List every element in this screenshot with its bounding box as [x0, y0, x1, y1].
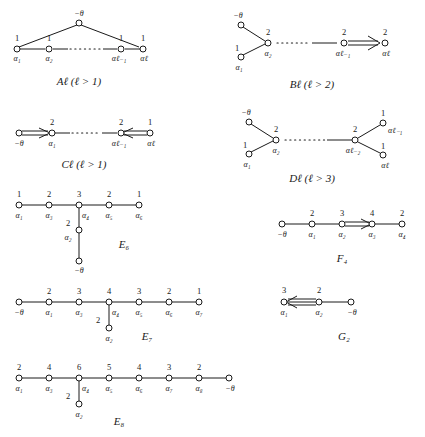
label-alpha2: α₂: [106, 334, 113, 343]
node-alpha1[interactable]: [16, 202, 22, 208]
node-theta[interactable]: [76, 258, 82, 264]
label-alpha-l: αℓ: [382, 49, 390, 58]
diagram-B: −θ 1 2 2 2 α₁ α₂ αℓ₋₁ αℓ Bℓ (ℓ > 2): [233, 11, 390, 91]
mark-alpha-l: 1: [141, 33, 145, 43]
node-alpha5[interactable]: [136, 299, 142, 305]
node-theta[interactable]: [238, 22, 244, 28]
mark-alpha-l-2: 2: [353, 124, 357, 134]
node-alpha3[interactable]: [369, 221, 375, 227]
node-alpha3[interactable]: [76, 299, 82, 305]
caption-D: Dℓ (ℓ > 3): [288, 172, 335, 185]
node-alpha-l-2[interactable]: [352, 137, 358, 143]
node-alpha-l[interactable]: [382, 40, 388, 46]
label-theta: −θ: [277, 230, 286, 239]
mark-alpha2: 2: [96, 315, 100, 325]
node-alpha-l-1[interactable]: [341, 40, 347, 46]
node-alpha1[interactable]: [238, 54, 244, 60]
node-alpha-l[interactable]: [380, 152, 386, 158]
node-alpha4[interactable]: [399, 221, 405, 227]
node-alpha-l-1[interactable]: [118, 130, 124, 136]
label-alpha-l-1: αℓ₋₁: [112, 139, 127, 148]
label-theta: −θ: [14, 139, 23, 148]
mark-alpha5: 3: [137, 286, 141, 296]
mark-alpha-l: 1: [381, 141, 385, 151]
node-alpha1[interactable]: [46, 299, 52, 305]
diagram-A: −θ 1 1 1 1 α₁ α₂ αℓ₋₁ αℓ Aℓ (ℓ > 1): [14, 9, 149, 88]
node-alpha1[interactable]: [14, 46, 20, 52]
node-alpha1[interactable]: [246, 151, 252, 157]
node-theta[interactable]: [348, 299, 354, 305]
label-alpha-l-2: αℓ₋₂: [346, 146, 361, 155]
node-alpha2[interactable]: [76, 227, 82, 233]
mark-alpha2: 2: [317, 285, 321, 295]
node-alpha1[interactable]: [49, 130, 55, 136]
node-theta[interactable]: [226, 375, 232, 381]
node-theta[interactable]: [16, 130, 22, 136]
node-alpha-l[interactable]: [147, 130, 153, 136]
mark-alpha6: 2: [167, 286, 171, 296]
node-theta[interactable]: [279, 221, 285, 227]
node-theta[interactable]: [16, 299, 22, 305]
arrowhead-right: [368, 36, 380, 50]
dynkin-diagrams-svg: −θ 1 1 1 1 α₁ α₂ αℓ₋₁ αℓ Aℓ (ℓ > 1) −θ 1…: [0, 0, 425, 437]
label-alpha-l-1: αℓ₋₁: [112, 54, 127, 63]
node-alpha2[interactable]: [46, 46, 52, 52]
node-alpha3[interactable]: [46, 202, 52, 208]
node-alpha5[interactable]: [106, 202, 112, 208]
node-alpha4[interactable]: [76, 375, 82, 381]
node-alpha8[interactable]: [196, 375, 202, 381]
mark-alpha7: 3: [167, 362, 171, 372]
node-alpha2[interactable]: [106, 325, 112, 331]
mark-alpha-l-1: 2: [342, 27, 346, 37]
label-theta: −θ: [14, 308, 23, 317]
diagram-C: 2 2 1 −θ α₁ αℓ₋₁ αℓ Cℓ (ℓ > 1): [14, 117, 155, 171]
node-alpha2[interactable]: [273, 137, 279, 143]
diagram-G2: 3 2 α₁ α₂ −θ G₂: [281, 285, 357, 342]
node-theta[interactable]: [76, 20, 82, 26]
label-alpha5: α₅: [106, 384, 113, 393]
mark-alpha-l: 1: [148, 117, 152, 127]
node-alpha-l-1[interactable]: [118, 46, 124, 52]
label-theta: −θ: [225, 384, 234, 393]
node-alpha6[interactable]: [136, 375, 142, 381]
diagram-F4: 2 3 4 2 −θ α₁ α₂ α₃ α₄ F₄: [277, 208, 405, 264]
label-alpha5: α₅: [136, 308, 143, 317]
node-theta[interactable]: [246, 119, 252, 125]
caption-E7: E₇: [141, 330, 153, 342]
node-alpha2[interactable]: [76, 401, 82, 407]
label-theta: −θ: [347, 308, 356, 317]
node-alpha5[interactable]: [106, 375, 112, 381]
node-alpha4[interactable]: [76, 202, 82, 208]
node-alpha1[interactable]: [16, 375, 22, 381]
mark-alpha1: 3: [282, 285, 286, 295]
node-alpha1[interactable]: [281, 299, 287, 305]
node-alpha2[interactable]: [265, 40, 271, 46]
mark-alpha3: 4: [47, 362, 52, 372]
node-alpha4[interactable]: [106, 299, 112, 305]
caption-F4: F₄: [336, 252, 348, 264]
label-theta: −θ: [74, 266, 83, 275]
caption-E8: E₈: [113, 415, 125, 427]
mark-alpha5: 5: [107, 362, 111, 372]
label-alpha2: α₂: [65, 233, 72, 242]
node-alpha1[interactable]: [309, 221, 315, 227]
node-alpha2[interactable]: [316, 299, 322, 305]
node-alpha2[interactable]: [339, 221, 345, 227]
label-alpha2: α₂: [273, 146, 280, 155]
node-alpha6[interactable]: [166, 299, 172, 305]
label-alpha7: α₇: [166, 384, 173, 393]
node-alpha7[interactable]: [196, 299, 202, 305]
node-alpha6[interactable]: [136, 202, 142, 208]
label-alpha4: α₄: [82, 384, 89, 393]
node-alpha-l-1[interactable]: [380, 120, 386, 126]
node-alpha3[interactable]: [46, 375, 52, 381]
caption-C: Cℓ (ℓ > 1): [62, 158, 107, 171]
node-alpha-l[interactable]: [140, 46, 146, 52]
mark-alpha-l-1: 1: [119, 33, 123, 43]
label-alpha2: α₂: [316, 308, 323, 317]
mark-alpha1: 2: [50, 117, 54, 127]
diagram-E7: 2 3 4 3 2 1 2 −θ α₁ α₃ α₄ α₅ α₆ α₇ α₂ E₇: [14, 286, 202, 343]
node-alpha7[interactable]: [166, 375, 172, 381]
label-alpha-l-1: αℓ₋₁: [336, 49, 351, 58]
mark-alpha8: 2: [197, 362, 201, 372]
